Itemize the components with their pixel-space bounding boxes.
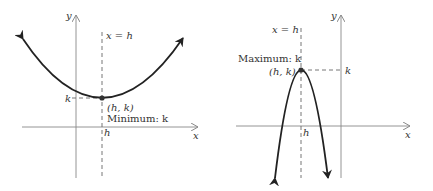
right-vertex-point: [298, 67, 303, 72]
parabola-diagrams: y x x = h k (h, k) Minimum: k h y x x = …: [0, 0, 433, 191]
left-extremum-label: Minimum: k: [107, 113, 169, 124]
right-k-tick-label: k: [345, 65, 351, 76]
right-parabola: [275, 70, 328, 178]
right-vertex-label: (h, k): [269, 66, 296, 77]
left-y-axis-label: y: [65, 10, 72, 21]
left-vertex-label: (h, k): [107, 102, 134, 113]
right-h-tick-label: h: [303, 127, 309, 138]
right-symmetry-label: x = h: [272, 24, 299, 35]
left-figure: y x x = h k (h, k) Minimum: k h: [22, 10, 199, 178]
right-y-axis-label: y: [330, 10, 337, 21]
left-vertex-point: [99, 95, 104, 100]
left-x-axis-label: x: [193, 130, 199, 141]
left-symmetry-label: x = h: [106, 30, 133, 41]
left-parabola: [23, 38, 183, 98]
right-extremum-label: Maximum: k: [238, 53, 302, 64]
left-k-tick-label: k: [65, 93, 71, 104]
right-figure: y x x = h Maximum: k (h, k) k h: [236, 10, 411, 178]
right-x-axis-label: x: [405, 129, 411, 140]
left-h-tick-label: h: [104, 127, 110, 138]
